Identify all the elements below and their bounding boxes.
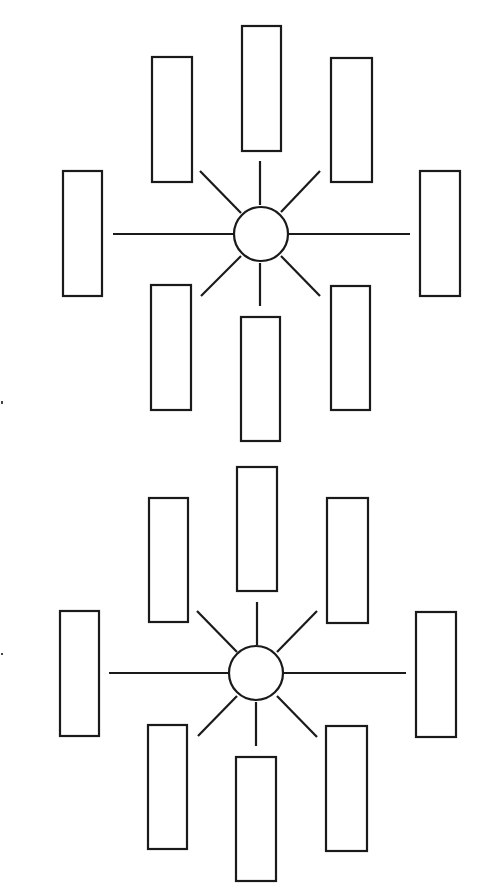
spoke-up-right bbox=[277, 611, 317, 652]
blank-box-top-center[interactable] bbox=[242, 26, 281, 151]
bottom-spider-diagram bbox=[60, 467, 456, 881]
spoke-down-left bbox=[198, 696, 237, 736]
spoke-down-right bbox=[281, 256, 320, 296]
blank-box-bottom-center[interactable] bbox=[236, 757, 276, 881]
spoke-up-right bbox=[281, 171, 320, 212]
blank-box-bottom-center[interactable] bbox=[241, 317, 280, 441]
blank-box-right[interactable] bbox=[420, 171, 460, 296]
blank-box-upper-left[interactable] bbox=[152, 57, 192, 182]
blank-box-lower-right[interactable] bbox=[326, 726, 367, 851]
spoke-down-right bbox=[277, 696, 317, 737]
spoke-up-left bbox=[197, 611, 237, 652]
blank-box-top-center[interactable] bbox=[237, 467, 277, 591]
blank-box-lower-left[interactable] bbox=[151, 285, 191, 410]
worksheet-canvas bbox=[0, 0, 486, 894]
scan-marks bbox=[1, 401, 3, 655]
spoke-up-left bbox=[200, 171, 241, 213]
scan-speck bbox=[1, 401, 3, 404]
blank-box-upper-left[interactable] bbox=[149, 498, 188, 622]
blank-box-left[interactable] bbox=[60, 611, 99, 736]
center-circle[interactable] bbox=[234, 207, 288, 261]
diagrams-root bbox=[60, 26, 460, 881]
scan-speck bbox=[1, 653, 3, 655]
blank-box-upper-right[interactable] bbox=[331, 58, 372, 182]
blank-box-lower-right[interactable] bbox=[331, 286, 370, 410]
blank-box-left[interactable] bbox=[63, 171, 102, 296]
blank-box-upper-right[interactable] bbox=[327, 498, 368, 623]
top-spider-diagram bbox=[63, 26, 460, 441]
blank-box-lower-left[interactable] bbox=[148, 725, 187, 849]
center-circle[interactable] bbox=[229, 646, 283, 700]
blank-box-right[interactable] bbox=[416, 612, 456, 737]
spoke-down-left bbox=[201, 256, 241, 296]
